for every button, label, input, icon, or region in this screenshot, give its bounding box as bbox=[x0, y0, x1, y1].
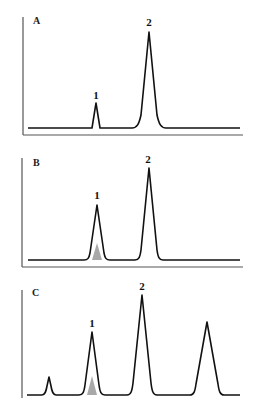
panel-label: A bbox=[33, 15, 41, 26]
highlight-triangle bbox=[92, 243, 102, 260]
peak-label-1: 1 bbox=[94, 189, 100, 201]
peak-label-2: 2 bbox=[145, 153, 151, 165]
panel-c: C 1 2 bbox=[22, 280, 240, 398]
panel-b: B 1 2 bbox=[22, 153, 243, 267]
trace bbox=[27, 295, 240, 395]
peak-label-1: 1 bbox=[89, 317, 95, 329]
panel-a: A 1 2 bbox=[23, 15, 243, 135]
trace bbox=[28, 32, 240, 128]
highlight-triangle bbox=[87, 376, 97, 395]
peak-label-2: 2 bbox=[139, 280, 145, 292]
panel-label: C bbox=[32, 287, 39, 298]
peak-label-2: 2 bbox=[146, 16, 152, 28]
panel-label: B bbox=[33, 157, 40, 168]
peak-label-1: 1 bbox=[93, 89, 99, 101]
chromatogram-figure: A 1 2 B 1 2 C 1 2 bbox=[0, 0, 257, 398]
trace bbox=[28, 168, 240, 260]
